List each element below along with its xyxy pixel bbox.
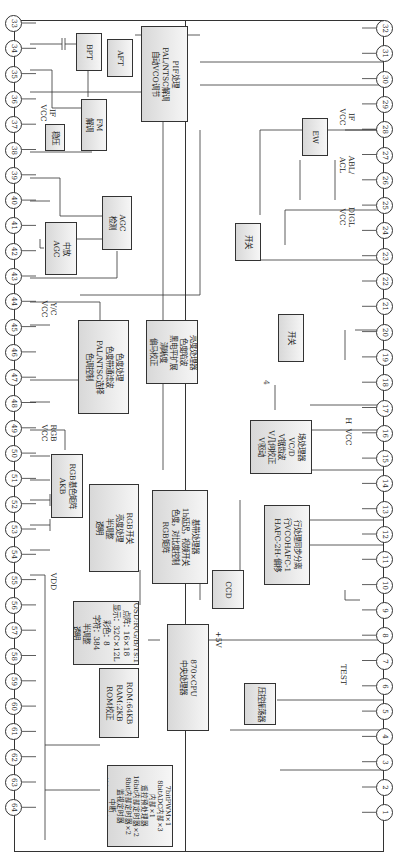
pin-9: 9 [376, 602, 393, 619]
pin-21: 21 [376, 298, 393, 315]
rgb-switch-block: RGB开关 亮度处理 半调整 透明 [89, 484, 139, 572]
pin-56: 56 [5, 597, 22, 614]
pin-number: 49 [6, 421, 21, 436]
test-label: TEST [339, 662, 348, 688]
pin-42: 42 [5, 243, 22, 260]
pin-number: 23 [377, 249, 392, 264]
pin-32: 32 [376, 20, 393, 37]
pin-4: 4 [376, 728, 393, 745]
switch-a-block: 开关 [235, 223, 261, 261]
pin-36: 36 [5, 91, 22, 108]
pin-11: 11 [376, 551, 393, 568]
pin-number: 40 [6, 193, 21, 208]
pin-number: 26 [377, 173, 392, 188]
pin-25: 25 [376, 197, 393, 214]
pin-number: 5 [377, 704, 392, 719]
v-processor-label: 场处理器 VC/D V锯齿波 V几何校正 V驱动 [256, 430, 306, 463]
pin-24: 24 [376, 222, 393, 239]
pin-55: 55 [5, 572, 22, 589]
aft-label: AFT [115, 50, 125, 66]
pin-number: 22 [377, 274, 392, 289]
pin-17: 17 [376, 400, 393, 417]
pin-number: 33 [6, 16, 21, 31]
pin-number: 13 [377, 502, 392, 517]
yc-vcc-label: Y/C VCC [40, 298, 58, 320]
pin-number: 18 [377, 375, 392, 390]
v-processor-block: 场处理器 VC/D V锯齿波 V几何校正 V驱动 [250, 420, 312, 474]
fm-demod-block: FM 解调 [81, 99, 107, 151]
pin-64: 64 [5, 799, 22, 816]
pin-number: 31 [377, 46, 392, 61]
pin-number: 43 [6, 269, 21, 284]
vdd-label: VDD [49, 571, 58, 593]
pin-number: 10 [377, 578, 392, 593]
pin-number: 62 [6, 750, 21, 765]
pin-61: 61 [5, 723, 22, 740]
pin-number: 38 [6, 143, 21, 158]
pin-number: 34 [6, 41, 21, 56]
agc-detect-block: AGC 检测 [102, 196, 132, 250]
rom-ram-label: ROM:64KB RAM:2KB ROM校正 [104, 682, 134, 725]
ew-label: EW [310, 130, 320, 143]
h-processor-label: 行处理同步分离 行VCOHAFC-1 HAFC-2H-偏移 [272, 518, 302, 573]
cpu-label: 870×CPU 中央处理器 [178, 659, 198, 697]
pin-number: 12 [377, 527, 392, 542]
pin-30: 30 [376, 71, 393, 88]
rom-ram-block: ROM:64KB RAM:2KB ROM校正 [99, 668, 139, 738]
pin-45: 45 [5, 319, 22, 336]
pin-number: 60 [6, 699, 21, 714]
pin-62: 62 [5, 749, 22, 766]
pin-number: 6 [377, 679, 392, 694]
pin-number: 20 [377, 325, 392, 340]
pin-48: 48 [5, 395, 22, 412]
pin-6: 6 [376, 678, 393, 695]
pin-5: 5 [376, 703, 393, 720]
pin-number: 52 [6, 497, 21, 512]
ccd-block: CCD [212, 570, 244, 609]
pin-13: 13 [376, 501, 393, 518]
pin-35: 35 [5, 66, 22, 83]
pin-7: 7 [376, 653, 393, 670]
pin-26: 26 [376, 172, 393, 189]
rgb-matrix-label: RGB基色矩阵 AKB [57, 463, 77, 508]
pin-53: 53 [5, 521, 22, 538]
pin-number: 15 [377, 451, 392, 466]
pin-57: 57 [5, 622, 22, 639]
pin-59: 59 [5, 673, 22, 690]
pin-54: 54 [5, 546, 22, 563]
bpt-label: BPT [84, 44, 94, 60]
pin-23: 23 [376, 248, 393, 265]
osd-label: OSD:R/G/B/Ys:1 点阵：16×18 显示：32C×12L 彩色：8 … [73, 603, 139, 664]
pin-number: 59 [6, 674, 21, 689]
pin-number: 8 [377, 628, 392, 643]
pin-14: 14 [376, 475, 393, 492]
pin-58: 58 [5, 648, 22, 665]
pin-number: 25 [377, 198, 392, 213]
digl-vcc-label: DIGL VCC [338, 205, 356, 229]
pin-43: 43 [5, 268, 22, 285]
ew-block: EW [302, 118, 328, 156]
pin-number: 56 [6, 598, 21, 613]
pin-number: 58 [6, 649, 21, 664]
pin-number: 55 [6, 573, 21, 588]
bpt-block: BPT [76, 33, 102, 71]
pin-number: 4 [377, 729, 392, 744]
h-processor-block: 行处理同步分离 行VCOHAFC-1 HAFC-2H-偏移 [264, 505, 310, 585]
pin-number: 30 [377, 72, 392, 87]
luma-processor-block: 亮度处理器 色度陷波 黑电平扩展 清晰度 偏马校正 [146, 320, 198, 384]
pin-number: 45 [6, 320, 21, 335]
pin-number: 46 [6, 345, 21, 360]
pin-3: 3 [376, 754, 393, 771]
regulator-label: 稳压 [50, 131, 60, 145]
if-vcc-label-right: IF VCC [338, 105, 356, 129]
pin-number: 51 [6, 471, 21, 486]
chroma-processor-block: 色度处理 色度带通滤波 PAL/NTSC选择 色调控制 [78, 320, 129, 414]
pin-51: 51 [5, 470, 22, 487]
pin-8: 8 [376, 627, 393, 644]
block-diagram: BPT AFT PIF处理 PAL/NTSC解调 自动VCO调节 FM 解调 稳… [0, 0, 398, 866]
pin-number: 24 [377, 223, 392, 238]
pin-28: 28 [376, 121, 393, 138]
pin-number: 57 [6, 623, 21, 638]
pin-2: 2 [376, 779, 393, 796]
rgb-switch-label: RGB开关 亮度处理 半调整 透明 [94, 512, 134, 543]
